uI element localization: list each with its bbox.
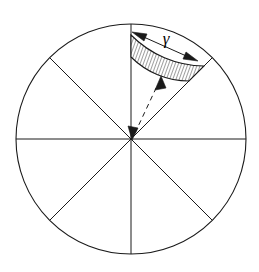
gamma-label: γ: [163, 29, 171, 48]
figure-container: γ: [0, 0, 259, 272]
sector-diagram-svg: γ: [0, 0, 259, 272]
radial-arrow-shaft: [135, 84, 158, 133]
dimension-arrowhead-right: [183, 52, 198, 61]
radial-arrowhead-outer: [155, 76, 166, 90]
hatched-annular-band: [110, 20, 230, 100]
radial-dashed-arrow: [128, 76, 166, 140]
